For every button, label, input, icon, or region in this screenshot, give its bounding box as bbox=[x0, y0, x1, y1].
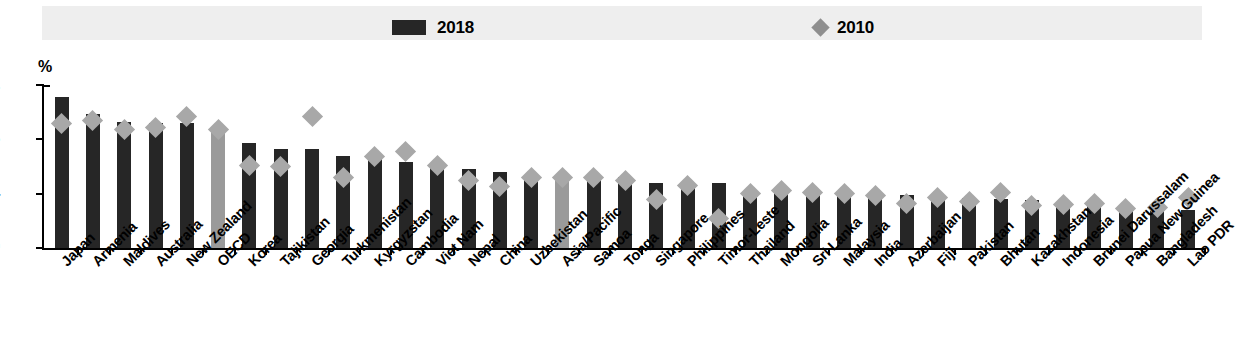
category-label-layer: JapanArmeniaMaldivesAustraliaNew Zealand… bbox=[46, 248, 1204, 362]
category-label: Fiji bbox=[934, 244, 959, 269]
legend-item-2018: 2018 bbox=[392, 16, 474, 38]
y-tick bbox=[36, 84, 44, 86]
y-axis-unit-label: % bbox=[38, 58, 52, 76]
diamond-swatch-icon bbox=[811, 18, 829, 36]
legend-band: 2018 2010 bbox=[42, 6, 1202, 40]
y-axis-line bbox=[42, 85, 44, 248]
bar-swatch-icon bbox=[392, 20, 426, 35]
y-tick bbox=[36, 193, 44, 195]
legend-label-2010: 2010 bbox=[837, 19, 874, 36]
plot-area: 04812 JapanArmeniaMaldivesAustraliaNew Z… bbox=[46, 85, 1204, 248]
y-tick bbox=[36, 247, 44, 249]
legend-label-2018: 2018 bbox=[437, 19, 474, 36]
legend-item-2010: 2010 bbox=[812, 16, 874, 38]
y-tick bbox=[36, 138, 44, 140]
